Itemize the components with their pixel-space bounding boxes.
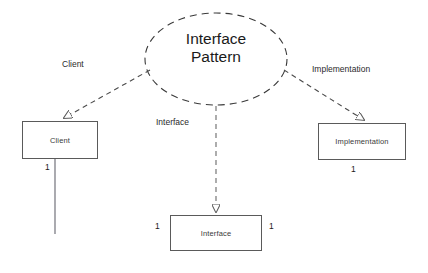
multiplicity-implementation-bottom: 1 <box>351 164 356 174</box>
node-interface-label: Interface <box>201 229 232 238</box>
diagram-canvas: Interface Pattern Client Implementation … <box>0 0 428 273</box>
pattern-name-line2: Pattern <box>146 48 286 66</box>
arrow-pattern-to-implementation <box>284 70 364 120</box>
pattern-name-line1: Interface <box>146 30 286 48</box>
node-interface[interactable]: Interface <box>170 215 262 251</box>
edge-label-interface: Interface <box>156 117 189 127</box>
multiplicity-interface-left: 1 <box>155 221 160 231</box>
edge-label-client: Client <box>62 59 84 69</box>
node-implementation[interactable]: Implementation <box>318 123 406 160</box>
edge-label-implementation: Implementation <box>312 64 370 74</box>
node-client-label: Client <box>50 136 70 145</box>
node-implementation-label: Implementation <box>335 137 388 146</box>
pattern-name: Interface Pattern <box>146 30 286 67</box>
arrow-pattern-to-client <box>64 70 150 118</box>
node-client[interactable]: Client <box>22 121 98 159</box>
multiplicity-interface-right: 1 <box>269 221 274 231</box>
multiplicity-client-bottom: 1 <box>45 162 50 172</box>
